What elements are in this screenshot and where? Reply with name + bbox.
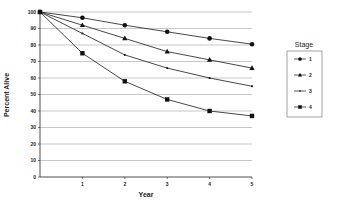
legend-label: 4 bbox=[309, 104, 312, 110]
dot-marker-icon bbox=[166, 67, 168, 69]
x-tick-label: 4 bbox=[208, 181, 211, 187]
square-marker-icon bbox=[207, 109, 211, 113]
y-axis-title: Percent Alive bbox=[3, 73, 10, 117]
y-tick-label: 70 bbox=[30, 58, 36, 64]
circle-marker-icon bbox=[250, 42, 255, 47]
x-tick-label: 3 bbox=[166, 181, 169, 187]
square-marker-icon bbox=[250, 114, 254, 118]
survival-chart: 0102030405060708090100 12345 Percent Ali… bbox=[0, 0, 339, 210]
dot-marker-icon bbox=[251, 85, 253, 87]
y-tick-label: 60 bbox=[30, 75, 36, 81]
dot-marker-icon bbox=[299, 90, 300, 91]
series-stage-2 bbox=[37, 9, 254, 70]
circle-marker-icon bbox=[207, 36, 212, 41]
dot-marker-icon bbox=[124, 54, 126, 56]
x-axis-title: Year bbox=[139, 191, 154, 198]
circle-marker-icon bbox=[165, 30, 170, 35]
y-tick-label: 0 bbox=[33, 174, 36, 180]
legend-label: 2 bbox=[309, 72, 312, 78]
x-tick-label: 2 bbox=[123, 181, 126, 187]
legend-title: Stage bbox=[295, 41, 313, 49]
x-axis-ticks: 12345 bbox=[81, 177, 254, 187]
legend-label: 1 bbox=[309, 56, 312, 62]
square-marker-icon bbox=[80, 51, 84, 55]
gridlines bbox=[40, 12, 252, 161]
y-tick-label: 100 bbox=[28, 9, 37, 15]
square-marker-icon bbox=[123, 79, 127, 83]
dot-marker-icon bbox=[209, 77, 211, 79]
data-series bbox=[37, 9, 254, 118]
y-tick-label: 20 bbox=[30, 141, 36, 147]
y-tick-label: 10 bbox=[30, 157, 36, 163]
y-tick-label: 80 bbox=[30, 42, 36, 48]
square-marker-icon bbox=[298, 105, 302, 109]
y-tick-label: 50 bbox=[30, 91, 36, 97]
y-tick-label: 40 bbox=[30, 108, 36, 114]
y-tick-label: 90 bbox=[30, 25, 36, 31]
legend-label: 3 bbox=[309, 88, 312, 94]
series-line bbox=[40, 12, 252, 86]
y-axis-ticks: 0102030405060708090100 bbox=[28, 9, 40, 180]
dot-marker-icon bbox=[82, 33, 84, 35]
x-tick-label: 5 bbox=[251, 181, 254, 187]
x-tick-label: 1 bbox=[81, 181, 84, 187]
legend: Stage 1234 bbox=[287, 41, 322, 117]
square-marker-icon bbox=[165, 97, 169, 101]
y-tick-label: 30 bbox=[30, 124, 36, 130]
series-stage-3 bbox=[39, 11, 253, 87]
series-stage-4 bbox=[38, 10, 254, 118]
circle-marker-icon bbox=[80, 15, 85, 20]
square-marker-icon bbox=[38, 10, 42, 14]
circle-marker-icon bbox=[123, 23, 128, 28]
circle-marker-icon bbox=[298, 57, 302, 61]
